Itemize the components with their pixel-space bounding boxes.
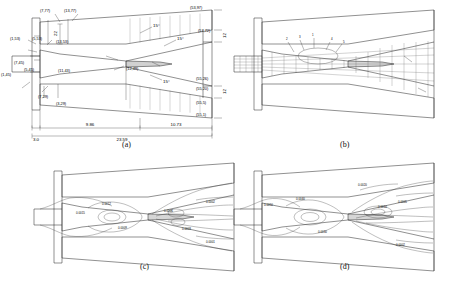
coord-label: (57,72)	[198, 28, 211, 33]
coord-label: (5,45)	[24, 67, 35, 72]
coord-label: (12,49)	[126, 66, 139, 71]
contour-label: 0.0015	[76, 211, 85, 215]
vertical-dim: 12	[222, 89, 227, 94]
coord-label: (3,29)	[56, 101, 67, 106]
coord-label: (55,5)	[196, 100, 207, 105]
panel-label-a: (a)	[122, 140, 131, 149]
contour-label: 0.0030	[318, 230, 327, 234]
horizontal-dim: 9.86	[86, 122, 95, 127]
coord-label: (1,45)	[1, 72, 12, 77]
coord-label: (13,77)	[64, 8, 77, 13]
panel-b-annotation: 4	[331, 37, 333, 41]
panel-b-annotation: 1	[312, 33, 314, 37]
panel-b-annotation: 3	[299, 35, 301, 39]
contour-label: 0.0002	[206, 200, 215, 204]
coord-label: (13,53)	[56, 39, 69, 44]
contour-label: 0.0010	[378, 205, 387, 209]
coord-label: (1,53)	[10, 36, 21, 41]
figure-svg: (7,77) (13,77) (53,97) (1,53) (5,53) (13…	[0, 0, 452, 287]
panel-label-b: (b)	[340, 140, 349, 149]
figure-container: (7,77) (13,77) (53,97) (1,53) (5,53) (13…	[0, 0, 452, 287]
panel-d-group: 0.0050 0.0040 0.0030 0.0020 0.0010 0.000…	[234, 163, 434, 271]
contour-label: 0.0001	[206, 240, 215, 244]
panel-b-annotation: 2	[286, 37, 288, 41]
contour-label: 0.0003	[182, 227, 191, 231]
vertical-dim: 22	[53, 31, 58, 36]
panel-label-c: (c)	[140, 262, 149, 271]
contour-label: 0.0006	[164, 209, 173, 213]
horizontal-dim: 10.73	[171, 122, 183, 127]
contour-label: 0.0009	[118, 226, 127, 230]
coord-label: (53,97)	[190, 5, 203, 10]
coord-label: (55,20)	[196, 86, 209, 91]
contour-label: 0.0050	[264, 203, 273, 207]
panel-label-d: (d)	[340, 262, 349, 271]
horizontal-dim: 3.0	[33, 137, 40, 142]
coord-label: (55,26)	[196, 76, 209, 81]
angle-label: 15°	[163, 79, 170, 84]
contour-label: 0.0020	[358, 183, 367, 187]
contour-label: 0.0002	[396, 243, 405, 247]
coord-label: (11,43)	[58, 68, 71, 73]
coord-label: (5,53)	[32, 36, 43, 41]
coord-label: (7,29)	[38, 94, 49, 99]
angle-label: 15°	[177, 36, 184, 41]
panel-b-group: 2 3 1 4 5	[234, 10, 434, 118]
panel-b-annotation: 5	[343, 40, 345, 44]
contour-label: 0.0005	[398, 200, 407, 204]
contour-label: 0.0012	[102, 202, 111, 206]
coord-label: (55,1)	[196, 112, 207, 117]
panel-a-group: (7,77) (13,77) (53,97) (1,53) (5,53) (13…	[1, 5, 227, 142]
vertical-dim: 12	[222, 33, 227, 38]
coord-label: (7,77)	[40, 8, 51, 13]
angle-label: 15°	[153, 23, 160, 28]
coord-label: (7,45)	[14, 60, 25, 65]
panel-c-group: 0.0015 0.0012 0.0009 0.0006 0.0003 0.000…	[34, 163, 234, 271]
contour-label: 0.0040	[296, 197, 305, 201]
